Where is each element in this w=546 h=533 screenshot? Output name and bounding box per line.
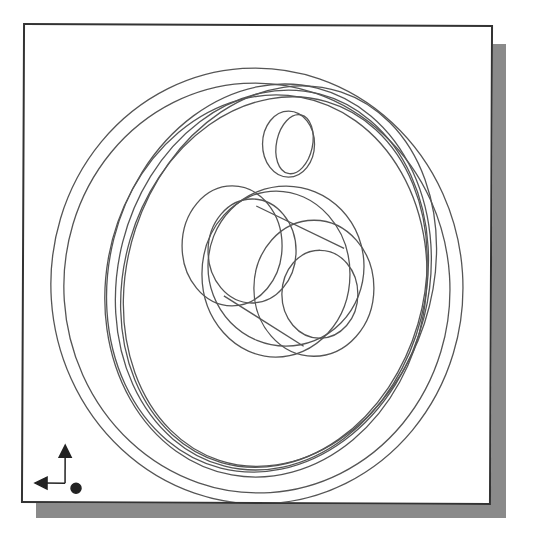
wireframe-drawing — [23, 25, 491, 503]
cad-viewport[interactable] — [21, 23, 493, 505]
axis-triad-icon — [29, 435, 89, 495]
